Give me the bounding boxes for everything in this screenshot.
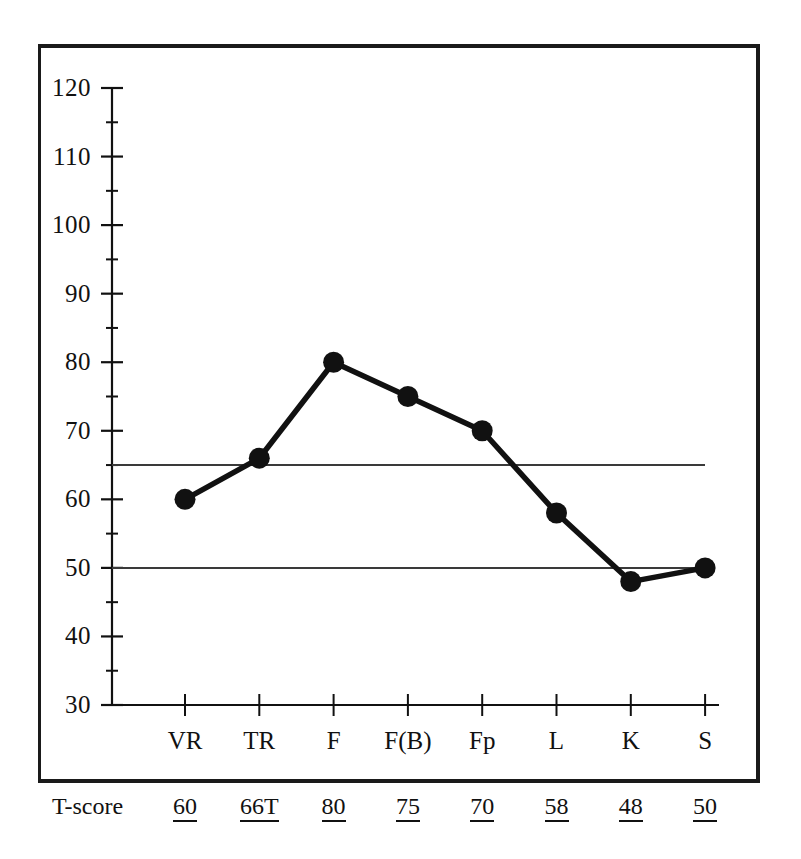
y-axis-tick-label: 50 <box>35 555 91 580</box>
profile-line <box>185 362 705 581</box>
data-point-marker[interactable] <box>397 386 418 407</box>
tscore-value-text: 75 <box>396 793 420 822</box>
tscore-value-text: 66T <box>240 793 279 822</box>
y-axis-tick-label: 60 <box>35 486 91 511</box>
chart-figure: 12011010090807060504030 VRTRFF(B)FpLKS T… <box>0 0 801 859</box>
tscore-value-text: 50 <box>693 793 717 822</box>
y-axis-tick-label: 100 <box>35 212 91 237</box>
data-point-marker[interactable] <box>695 557 716 578</box>
data-point-marker[interactable] <box>620 571 641 592</box>
x-axis-label-s: S <box>660 727 750 754</box>
data-series-layer <box>175 352 716 592</box>
y-axis-tick-label: 90 <box>35 281 91 306</box>
tscore-value-text: 48 <box>619 793 643 822</box>
tscore-value-text: 58 <box>545 793 569 822</box>
data-point-marker[interactable] <box>323 352 344 373</box>
data-point-marker[interactable] <box>175 489 196 510</box>
y-axis-tick-label: 80 <box>35 349 91 374</box>
y-axis-tick-label: 70 <box>35 418 91 443</box>
tscore-row-caption: T-score <box>52 792 123 820</box>
y-axis-tick-label: 120 <box>35 75 91 100</box>
tscore-value-text: 60 <box>173 793 197 822</box>
tscore-value-text: 80 <box>322 793 346 822</box>
data-point-marker[interactable] <box>472 420 493 441</box>
reference-lines-layer <box>112 465 705 568</box>
tscore-value-text: 70 <box>470 793 494 822</box>
tscore-value: 50 <box>660 792 750 820</box>
data-point-marker[interactable] <box>546 503 567 524</box>
y-axis-tick-label: 110 <box>35 144 91 169</box>
y-axis-tick-label: 30 <box>35 692 91 717</box>
data-point-marker[interactable] <box>249 448 270 469</box>
y-axis-tick-label: 40 <box>35 623 91 648</box>
